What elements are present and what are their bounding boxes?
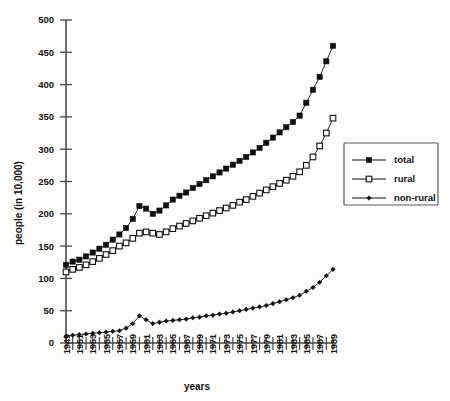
data-point-total xyxy=(170,197,175,202)
data-point-rural xyxy=(297,169,303,175)
x-axis-tick-labels: 1949195119531955195719591961196319651967… xyxy=(62,334,339,354)
data-point-total xyxy=(77,257,82,262)
data-point-total xyxy=(63,262,68,267)
data-point-rural xyxy=(250,194,256,200)
x-tick-label: 1987 xyxy=(315,334,325,354)
data-point-total xyxy=(250,150,255,155)
data-point-rural xyxy=(150,230,156,236)
data-point-total xyxy=(123,225,128,230)
data-point-rural xyxy=(143,229,149,235)
x-tick-label: 1989 xyxy=(329,334,339,354)
data-series-layer xyxy=(63,43,336,339)
x-tick-label: 1973 xyxy=(222,334,232,354)
x-tick-label: 1959 xyxy=(128,334,138,354)
data-point-rural xyxy=(230,203,236,209)
data-point-total xyxy=(144,206,149,211)
data-point-total xyxy=(237,158,242,163)
data-point-rural xyxy=(310,154,316,160)
x-tick-label: 1979 xyxy=(262,334,272,354)
data-point-rural xyxy=(270,184,276,190)
x-tick-label: 1971 xyxy=(208,334,218,354)
y-tick-label: 50 xyxy=(43,305,54,316)
data-point-rural xyxy=(237,199,243,205)
x-tick-label: 1981 xyxy=(275,334,285,354)
data-point-total xyxy=(117,232,122,237)
data-point-rural xyxy=(304,163,310,169)
data-point-total xyxy=(217,170,222,175)
x-tick-label: 1953 xyxy=(88,334,98,354)
data-point-total xyxy=(184,190,189,195)
data-point-rural xyxy=(366,176,372,182)
data-point-rural xyxy=(77,265,83,271)
data-point-rural xyxy=(97,256,103,262)
data-point-total xyxy=(110,237,115,242)
data-point-non-rural xyxy=(291,295,296,300)
data-point-non-rural xyxy=(191,316,196,321)
y-axis-tick-labels: 050100150200250300350400450500 xyxy=(38,14,54,348)
data-point-rural xyxy=(203,213,209,219)
data-point-total xyxy=(150,211,155,216)
data-point-rural xyxy=(324,130,330,136)
chart-legend: totalruralnon-rural xyxy=(344,143,438,205)
data-point-non-rural xyxy=(251,306,256,311)
x-tick-label: 1955 xyxy=(102,334,112,354)
data-point-total xyxy=(257,145,262,150)
series-rural xyxy=(63,115,336,274)
data-point-non-rural xyxy=(237,308,242,313)
data-point-non-rural xyxy=(297,293,302,298)
x-tick-label: 1977 xyxy=(249,334,259,354)
data-point-total xyxy=(290,119,295,124)
data-point-rural xyxy=(157,232,163,238)
y-tick-label: 100 xyxy=(38,273,54,284)
y-tick-label: 300 xyxy=(38,144,54,155)
data-point-total xyxy=(324,59,329,64)
data-point-total xyxy=(137,203,142,208)
data-point-rural xyxy=(177,223,183,229)
data-point-rural xyxy=(90,259,96,265)
data-point-total xyxy=(90,250,95,255)
data-point-rural xyxy=(317,143,323,149)
legend-label: total xyxy=(394,154,414,165)
data-point-rural xyxy=(277,181,283,187)
data-point-total xyxy=(97,246,102,251)
data-point-rural xyxy=(137,230,143,236)
data-point-total xyxy=(130,216,135,221)
data-point-rural xyxy=(290,174,296,180)
data-point-rural xyxy=(190,218,196,224)
data-point-total xyxy=(103,242,108,247)
data-point-rural xyxy=(210,210,216,216)
data-point-total xyxy=(177,193,182,198)
series-line-rural xyxy=(66,118,333,272)
y-tick-label: 400 xyxy=(38,79,54,90)
data-point-non-rural xyxy=(257,305,262,310)
x-tick-label: 1967 xyxy=(182,334,192,354)
data-point-total xyxy=(304,100,309,105)
x-tick-label: 1975 xyxy=(235,334,245,354)
data-point-non-rural xyxy=(244,307,249,312)
data-point-rural xyxy=(283,177,289,183)
data-point-rural xyxy=(110,248,116,254)
data-point-total xyxy=(277,130,282,135)
y-tick-label: 0 xyxy=(49,337,54,348)
data-point-rural xyxy=(83,262,89,268)
data-point-rural xyxy=(103,252,109,258)
x-tick-label: 1961 xyxy=(142,334,152,354)
x-axis-title: years xyxy=(184,381,211,392)
data-point-non-rural xyxy=(264,303,269,308)
legend-label: rural xyxy=(394,173,415,184)
data-point-rural xyxy=(63,269,69,275)
data-point-non-rural xyxy=(231,310,236,315)
data-point-total xyxy=(204,178,209,183)
population-line-chart: 050100150200250300350400450500 people (i… xyxy=(0,0,450,401)
data-point-rural xyxy=(257,190,263,196)
data-point-non-rural xyxy=(171,318,176,323)
data-point-total xyxy=(190,185,195,190)
data-point-rural xyxy=(243,197,249,203)
data-point-non-rural xyxy=(164,319,169,324)
series-total xyxy=(63,43,335,267)
series-line-non-rural xyxy=(66,269,333,336)
series-non-rural xyxy=(64,267,336,339)
data-point-non-rural xyxy=(197,315,202,320)
data-point-rural xyxy=(330,115,336,121)
data-point-non-rural xyxy=(217,312,222,317)
